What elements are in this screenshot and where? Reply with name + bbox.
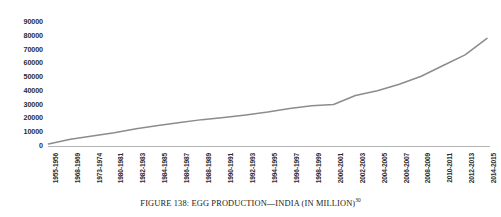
figure-caption-text: FIGURE 138: EGG PRODUCTION—INDIA (IN MIL… [140, 199, 355, 208]
figure-container: 0100002000030000400005000060000700008000… [0, 0, 501, 217]
x-axis-tick-label: 1992-1993 [249, 153, 256, 183]
x-axis-tick-label: 2002-2003 [359, 153, 366, 183]
x-axis-tick-labels: 1955-19561968-19691973-19741980-19811982… [0, 150, 501, 198]
x-axis-tick-label: 1968-1969 [74, 153, 81, 183]
chart-plot-area: 0100002000030000400005000060000700008000… [0, 0, 501, 152]
y-axis-tick-label: 20000 [24, 114, 44, 122]
y-axis-tick-label: 90000 [24, 18, 44, 26]
x-axis-tick-label: 1984-1985 [161, 153, 168, 183]
x-axis-tick-label: 2000-2001 [337, 153, 344, 183]
y-axis-tick-label: 60000 [24, 59, 44, 67]
x-axis-tick-label: 1973-1974 [96, 153, 103, 183]
y-axis-tick-label: 40000 [24, 87, 44, 95]
y-axis-tick-label: 30000 [24, 101, 44, 109]
x-axis-tick-label: 2012-2013 [468, 153, 475, 183]
y-axis-tick-label: 80000 [24, 32, 44, 40]
x-axis-tick-label: 2008-2009 [424, 153, 431, 183]
y-axis-tick-label: 0 [39, 142, 43, 150]
data-series-line [49, 38, 488, 144]
x-axis-tick-label: 1994-1995 [271, 153, 278, 183]
x-axis-tick-label: 1955-1956 [52, 153, 59, 183]
y-axis-tick-labels: 0100002000030000400005000060000700008000… [0, 0, 46, 152]
y-axis-tick-label: 10000 [24, 128, 44, 136]
y-axis-tick-label: 70000 [24, 46, 44, 54]
x-axis-tick-label: 1986-1987 [183, 153, 190, 183]
x-axis-tick-label: 2010-2011 [446, 153, 453, 183]
x-axis-tick-label: 1990-1991 [227, 153, 234, 183]
x-axis-tick-label: 2014-2015 [490, 153, 497, 183]
x-axis-tick-label: 1982-1983 [139, 153, 146, 183]
line-chart-svg [0, 0, 501, 152]
x-axis-tick-label: 1988-1989 [205, 153, 212, 183]
y-axis-tick-label: 50000 [24, 73, 44, 81]
x-axis-tick-label: 1980-1981 [117, 153, 124, 183]
figure-caption-superscript: 30 [355, 197, 360, 203]
x-axis-tick-label: 2004-2005 [381, 153, 388, 183]
x-axis-tick-label: 2006-2007 [403, 153, 410, 183]
figure-caption: FIGURE 138: EGG PRODUCTION—INDIA (IN MIL… [0, 197, 501, 208]
x-axis-tick-label: 1998-1999 [315, 153, 322, 183]
x-axis-tick-label: 1996-1997 [293, 153, 300, 183]
